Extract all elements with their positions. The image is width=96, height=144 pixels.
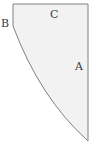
region-label-a: A	[75, 61, 83, 72]
region-label-c: C	[50, 9, 58, 20]
vertex-label-b: B	[1, 18, 9, 29]
figure-canvas: B C A	[0, 0, 96, 144]
